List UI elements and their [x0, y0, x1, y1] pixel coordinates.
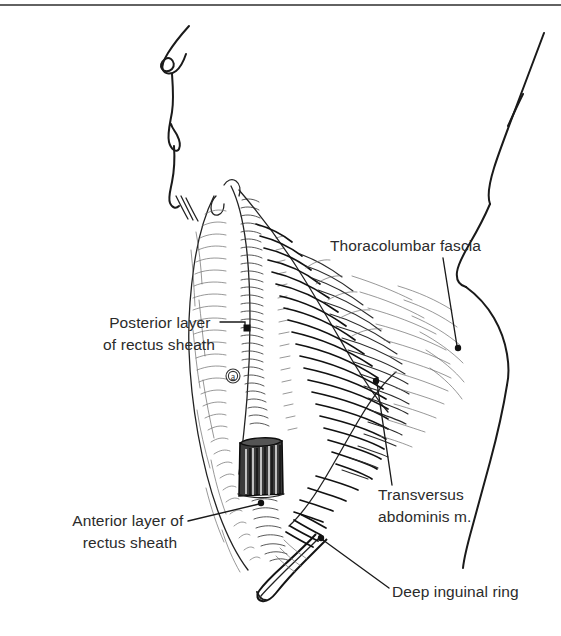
- label-anterior-layer-rectus-sheath: Anterior layer of rectus sheath: [72, 512, 188, 551]
- label-transversus-abdominis: Transversus abdominis m.: [378, 486, 471, 525]
- left-flank-contour: [168, 74, 179, 151]
- left-body-contour: [162, 26, 189, 74]
- label-line: abdominis m.: [378, 508, 471, 525]
- marker-posterior-layer-rectus-sheath: [244, 325, 251, 332]
- cord-inner-line: [261, 539, 318, 596]
- leader-posterior-layer-rectus-sheath: [220, 322, 245, 328]
- marker-transversus-abdominis: [373, 378, 379, 384]
- rectus-muscle-stump: [238, 438, 284, 498]
- leader-thoracolumbar-fascia: [443, 258, 457, 346]
- rectus-sheath-medial-fold: [211, 196, 224, 215]
- label-line: Posterior layer: [109, 314, 210, 331]
- label-line: Thoracolumbar fascia: [330, 237, 481, 254]
- rectus-sheath-region: [189, 180, 297, 572]
- linea-alba-hatching: [241, 199, 269, 426]
- label-posterior-layer-rectus-sheath: Posterior layer of rectus sheath: [103, 314, 215, 353]
- label-line: Deep inguinal ring: [392, 583, 519, 600]
- label-line: Anterior layer of: [72, 512, 184, 529]
- anatomy-figure: a Posterior layer of rectus sheath Anter…: [0, 0, 561, 636]
- transversus-fiber-hatching-mid: [300, 254, 409, 479]
- lower-sheath-hatching: [251, 490, 290, 561]
- label-line: of rectus sheath: [103, 336, 215, 353]
- label-deep-inguinal-ring: Deep inguinal ring: [392, 583, 519, 600]
- circle-mark-letter: a: [231, 371, 236, 382]
- label-thoracolumbar-fascia: Thoracolumbar fascia: [330, 237, 481, 254]
- right-hip-contour: [466, 287, 509, 385]
- spermatic-cord-group: [257, 514, 327, 601]
- label-line: rectus sheath: [83, 534, 177, 551]
- anatomy-illustration-canvas: a Posterior layer of rectus sheath Anter…: [0, 0, 561, 636]
- leader-deep-inguinal-ring: [323, 540, 389, 588]
- right-back-contour: [489, 33, 544, 204]
- labels-group: Posterior layer of rectus sheath Anterio…: [72, 237, 519, 600]
- marker-anterior-layer-rectus-sheath: [258, 500, 264, 506]
- label-line: Transversus: [378, 486, 464, 503]
- marker-thoracolumbar-fascia: [455, 345, 461, 351]
- right-scapula-tick: [508, 94, 523, 126]
- circled-letter-a-marker: a: [226, 369, 240, 383]
- marker-deep-inguinal-ring: [318, 535, 324, 541]
- right-thigh-contour: [463, 385, 507, 568]
